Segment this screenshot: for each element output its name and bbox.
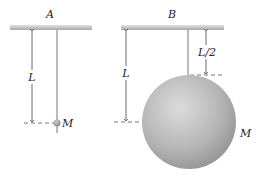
ceiling-a: [10, 25, 92, 30]
ceiling-b: [121, 25, 224, 30]
point-mass-a: [54, 120, 61, 127]
panel-a-title: A: [45, 8, 54, 21]
mass-label-a: M: [61, 117, 74, 130]
sphere-mass-b: [142, 75, 236, 169]
pendulum-diagram: A L M B L L/2 M: [0, 0, 256, 176]
half-length-label-b: L/2: [197, 46, 216, 59]
length-label-a: L: [27, 71, 35, 84]
mass-label-b: M: [239, 127, 252, 140]
length-label-b: L: [121, 67, 129, 80]
panel-a: A L M: [10, 8, 92, 133]
panel-b: B L L/2 M: [114, 8, 252, 169]
panel-b-title: B: [167, 8, 176, 21]
